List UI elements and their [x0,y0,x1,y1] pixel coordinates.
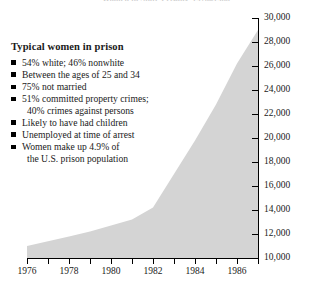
x-axis-line [27,258,259,259]
x-axis-tick [132,258,133,264]
y-axis-tick [252,90,259,91]
legend-item: Women make up 4.9% ofthe U.S. prison pop… [11,141,171,164]
square-bullet-icon [11,145,16,150]
square-bullet-icon [11,85,16,90]
y-axis-tick [252,66,259,67]
y-axis-label: 20,000 [264,133,290,143]
figure-canvas: Women in State Prisons, 1976–1986 10,000… [0,0,332,299]
y-axis-tick [252,210,259,211]
x-axis-tick [195,258,196,264]
y-axis-label: 14,000 [264,205,290,215]
x-axis-tick [153,258,154,264]
y-axis-tick [252,42,259,43]
legend-item-text: Unemployed at time of arrest [22,129,134,140]
legend-item-text-continued: the U.S. prison population [22,153,171,165]
x-axis-label: 1982 [144,266,163,276]
x-axis-tick [111,258,112,264]
legend-item-text: Likely to have had children [22,117,128,128]
x-axis-tick [27,258,28,264]
x-axis-label: 1976 [18,266,37,276]
y-axis-label: 12,000 [264,229,290,239]
legend-item: 54% white; 46% nonwhite [11,57,171,69]
square-bullet-icon [11,97,16,102]
y-axis-tick [252,138,259,139]
legend-item: 75% not married [11,81,171,93]
x-axis-label: 1984 [186,266,205,276]
x-axis-tick [48,258,49,264]
y-axis-tick [252,162,259,163]
figure-title: Women in State Prisons, 1976–1986 [0,0,332,1]
y-axis-label: 18,000 [264,157,290,167]
y-axis-label: 22,000 [264,109,290,119]
y-axis-label: 26,000 [264,61,290,71]
x-axis-label: 1980 [102,266,121,276]
y-axis-tick [252,186,259,187]
x-axis-tick [174,258,175,264]
legend-item: 51% committed property crimes;40% crimes… [11,93,171,116]
x-axis-tick [258,258,259,264]
legend-item-text: 51% committed property crimes; [22,93,149,104]
y-axis-tick [252,114,259,115]
legend-item-text: 54% white; 46% nonwhite [22,57,124,68]
legend-item-text: Between the ages of 25 and 34 [22,69,140,80]
legend-item: Likely to have had children [11,117,171,129]
legend-item-text: Women make up 4.9% of [22,141,120,152]
y-axis-label: 16,000 [264,181,290,191]
y-axis-tick [252,234,259,235]
legend-item-text-continued: 40% crimes against persons [22,105,171,117]
x-axis-label: 1978 [60,266,79,276]
legend-callout: Typical women in prison 54% white; 46% n… [11,40,171,165]
y-axis-label: 30,000 [264,13,290,23]
legend-item: Between the ages of 25 and 34 [11,69,171,81]
legend-heading: Typical women in prison [11,40,171,53]
square-bullet-icon [11,60,16,65]
y-axis-tick [252,18,259,19]
y-axis-label: 28,000 [264,37,290,47]
x-axis-tick [69,258,70,264]
x-axis-tick [90,258,91,264]
legend-item: Unemployed at time of arrest [11,129,171,141]
y-axis-label: 10,000 [264,253,290,263]
legend-list: 54% white; 46% nonwhiteBetween the ages … [11,57,171,164]
x-axis-tick [237,258,238,264]
square-bullet-icon [11,132,16,137]
x-axis-label: 1986 [228,266,247,276]
x-axis-tick [216,258,217,264]
square-bullet-icon [11,72,16,77]
square-bullet-icon [11,120,16,125]
legend-item-text: 75% not married [22,81,86,92]
y-axis-label: 24,000 [264,85,290,95]
